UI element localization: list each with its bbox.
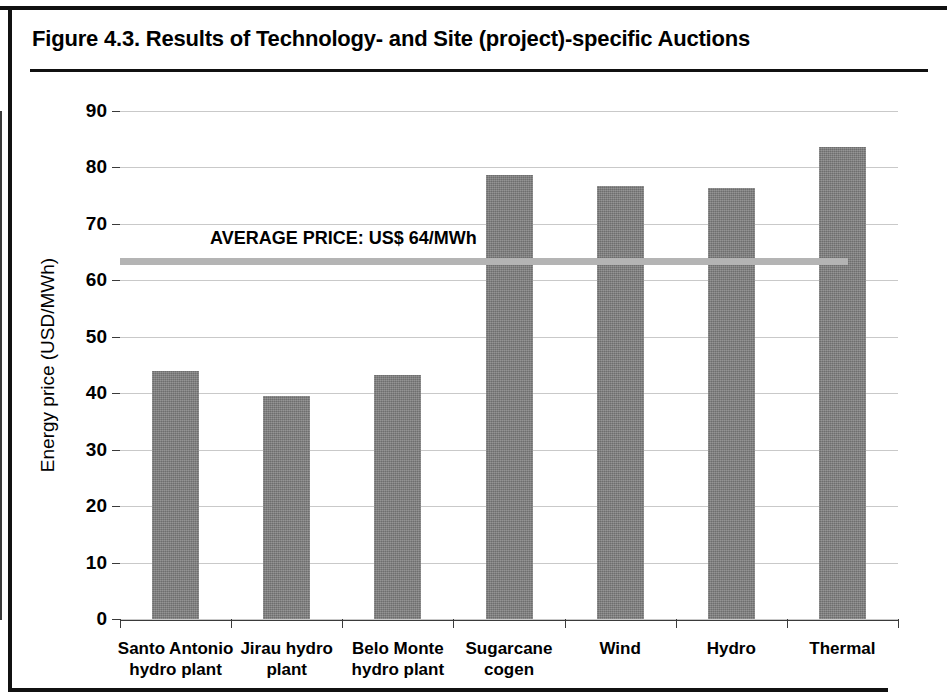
bar <box>374 375 421 619</box>
x-axis-label: Jirau hydroplant <box>240 638 333 681</box>
y-axis-tick-label: 60 <box>86 269 107 291</box>
y-axis-tick <box>112 337 120 338</box>
x-axis-label: Sugarcanecogen <box>466 638 553 681</box>
y-axis-tick-label: 30 <box>86 439 107 461</box>
y-axis-tick-label: 10 <box>86 552 107 574</box>
x-axis-label-line: hydro plant <box>118 659 234 680</box>
bar <box>597 186 644 619</box>
x-axis-label: Thermal <box>809 638 875 659</box>
y-axis-tick <box>112 167 120 168</box>
y-axis-tick-label: 90 <box>86 100 107 122</box>
y-axis-tick-label: 0 <box>96 608 107 630</box>
y-axis-tick <box>112 619 120 620</box>
x-axis-tick <box>342 619 343 628</box>
y-axis-tick-label: 80 <box>86 156 107 178</box>
x-axis-label-line: hydro plant <box>352 659 445 680</box>
figure-title: Figure 4.3. Results of Technology- and S… <box>32 26 750 52</box>
bar <box>708 188 755 619</box>
x-axis-label: Belo Montehydro plant <box>352 638 445 681</box>
plot-area: Energy price (USD/MWh) 01020304050607080… <box>120 111 898 619</box>
y-axis-tick <box>112 393 120 394</box>
x-axis-tick <box>787 619 788 628</box>
gridline <box>120 167 898 168</box>
bar <box>263 396 310 619</box>
x-axis-label-line: Thermal <box>809 638 875 659</box>
y-axis-tick <box>112 450 120 451</box>
bar <box>152 371 199 619</box>
x-axis-label-line: Belo Monte <box>352 638 445 659</box>
y-axis-tick <box>112 280 120 281</box>
x-axis-label-line: Hydro <box>707 638 756 659</box>
x-axis-tick <box>676 619 677 628</box>
frame-border-top <box>0 6 947 10</box>
gridline <box>120 111 898 112</box>
y-axis-tick <box>112 506 120 507</box>
x-axis-tick <box>898 619 899 628</box>
y-axis-title: Energy price (USD/MWh) <box>37 258 59 472</box>
average-price-label: AVERAGE PRICE: US$ 64/MWh <box>210 228 477 249</box>
y-axis-line <box>0 111 2 620</box>
y-axis-tick-label: 40 <box>86 382 107 404</box>
title-divider <box>30 69 928 72</box>
y-axis-tick <box>112 111 120 112</box>
x-axis-label-line: Sugarcane <box>466 638 553 659</box>
gridline <box>120 619 898 620</box>
x-axis-tick <box>453 619 454 628</box>
x-axis-label: Wind <box>599 638 640 659</box>
bar <box>819 147 866 619</box>
y-axis-tick-label: 50 <box>86 326 107 348</box>
x-axis-label: Santo Antoniohydro plant <box>118 638 234 681</box>
y-axis-tick-label: 70 <box>86 213 107 235</box>
bar <box>486 175 533 619</box>
average-price-line <box>120 258 848 265</box>
x-axis-label-line: cogen <box>466 659 553 680</box>
y-axis-tick <box>112 563 120 564</box>
x-axis-tick <box>120 619 121 628</box>
x-axis-tick <box>231 619 232 628</box>
y-axis-tick <box>112 224 120 225</box>
x-axis-label-line: Wind <box>599 638 640 659</box>
x-axis-label-line: Santo Antonio <box>118 638 234 659</box>
x-axis-label: Hydro <box>707 638 756 659</box>
bar-chart: Energy price (USD/MWh) 01020304050607080… <box>0 80 947 690</box>
x-axis-label-line: Jirau hydro <box>240 638 333 659</box>
x-axis-label-line: plant <box>240 659 333 680</box>
x-axis-tick <box>565 619 566 628</box>
y-axis-tick-label: 20 <box>86 495 107 517</box>
figure-frame: Figure 4.3. Results of Technology- and S… <box>0 0 947 699</box>
